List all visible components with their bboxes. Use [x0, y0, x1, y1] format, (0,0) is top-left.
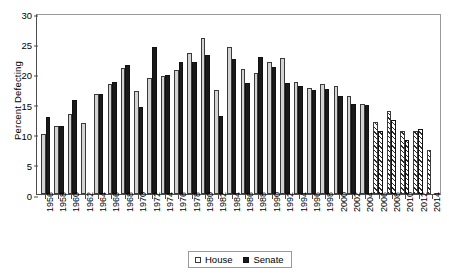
bar-group [79, 15, 92, 194]
legend-label-senate: Senate [253, 254, 283, 265]
bar-group [265, 15, 278, 194]
x-axis-label-cell: 1996 [305, 200, 318, 244]
x-axis-label-cell: 1998 [319, 200, 332, 244]
legend-item-senate: Senate [243, 254, 283, 265]
bar-senate [272, 67, 277, 194]
x-axis-label-cell: 2006 [372, 200, 385, 244]
x-axis-label-cell: 1986 [238, 200, 251, 244]
bar-senate [312, 90, 317, 194]
bar-senate [418, 129, 423, 194]
bar-group [92, 15, 105, 194]
legend-label-house: House [205, 254, 232, 265]
x-axis-label-cell: 2002 [345, 200, 358, 244]
bar-senate [72, 100, 77, 194]
bar-group [398, 15, 411, 194]
x-axis-label-cell: 1974 [158, 200, 171, 244]
bar-senate [298, 86, 303, 194]
bar-group [132, 15, 145, 194]
y-axis-tick-label: 10 [21, 130, 37, 141]
bar-group [172, 15, 185, 194]
x-axis-label-cell: 1980 [198, 200, 211, 244]
bar-group [145, 15, 158, 194]
bar-group [345, 15, 358, 194]
y-axis-tick-label: 5 [27, 160, 37, 171]
x-axis-label-cell: 1960 [65, 200, 78, 244]
x-axis-label-cell: 1978 [185, 200, 198, 244]
bar-senate [285, 83, 290, 194]
bar-group [252, 15, 265, 194]
bar-group [278, 15, 291, 194]
bar-senate [125, 65, 130, 194]
bar-series-area [37, 15, 440, 194]
legend-item-house: House [195, 254, 232, 265]
bar-senate [338, 96, 343, 194]
x-axis-label-cell: 1988 [252, 200, 265, 244]
bar-senate [325, 89, 330, 194]
bar-group [292, 15, 305, 194]
bar-senate [46, 117, 51, 194]
bar-senate [112, 82, 117, 194]
bar-group [305, 15, 318, 194]
bar-group [52, 15, 65, 194]
bar-senate [139, 107, 144, 194]
x-axis-label-cell: 2010 [399, 200, 412, 244]
bar-group [105, 15, 118, 194]
bar-house [427, 150, 432, 194]
bar-group [119, 15, 132, 194]
bar-group [425, 15, 438, 194]
bar-senate [219, 116, 224, 194]
bar-senate [391, 120, 396, 194]
x-axis-label-cell: 1956 [38, 200, 51, 244]
x-axis-label-cell: 1994 [292, 200, 305, 244]
bar-senate [405, 140, 410, 194]
chart-container: Percent Defecting 051015202530 195619581… [0, 0, 449, 275]
bar-senate [59, 126, 64, 194]
y-axis-tick-label: 15 [21, 100, 37, 111]
bar-senate [245, 83, 250, 194]
legend-swatch-house-icon [195, 257, 201, 263]
bar-senate [205, 55, 210, 194]
x-axis-label-cell: 1972 [145, 200, 158, 244]
bar-senate [179, 62, 184, 194]
bar-group [212, 15, 225, 194]
bar-senate [165, 75, 170, 194]
bar-house [81, 123, 86, 194]
bar-senate [152, 47, 157, 194]
x-axis-label-cell: 1970 [132, 200, 145, 244]
x-axis-label-cell: 2004 [359, 200, 372, 244]
x-axis-label-cell: 1992 [278, 200, 291, 244]
bar-group [411, 15, 424, 194]
bar-senate [365, 105, 370, 194]
x-axis-label-cell: 1990 [265, 200, 278, 244]
bar-senate [99, 94, 104, 194]
x-axis-label-cell: 2012 [412, 200, 425, 244]
bar-senate [351, 104, 356, 195]
bar-senate [192, 62, 197, 194]
bar-group [185, 15, 198, 194]
y-axis-tick-label: 30 [21, 10, 37, 21]
bar-group [39, 15, 52, 194]
x-axis-label-cell: 1958 [51, 200, 64, 244]
bar-group [66, 15, 79, 194]
bar-group [332, 15, 345, 194]
chart-legend: House Senate [188, 251, 292, 268]
x-axis-label: 2014 [432, 192, 442, 212]
x-axis-label-cell: 1976 [172, 200, 185, 244]
y-axis-tick-label: 25 [21, 40, 37, 51]
x-axis-label-cell: 2008 [385, 200, 398, 244]
bar-group [385, 15, 398, 194]
bar-group [371, 15, 384, 194]
bar-group [159, 15, 172, 194]
plot-area: 051015202530 [36, 14, 441, 195]
bar-senate [378, 131, 383, 194]
x-axis-label-cell: 1962 [78, 200, 91, 244]
x-axis-label-cell: 1964 [91, 200, 104, 244]
bar-group [238, 15, 251, 194]
y-axis-tick-label: 20 [21, 70, 37, 81]
x-axis-label-cell: 2014 [425, 200, 438, 244]
legend-swatch-senate-icon [243, 257, 249, 263]
bar-group [318, 15, 331, 194]
x-axis-label-cell: 2000 [332, 200, 345, 244]
bar-group [358, 15, 371, 194]
x-axis-label-cell: 1966 [105, 200, 118, 244]
